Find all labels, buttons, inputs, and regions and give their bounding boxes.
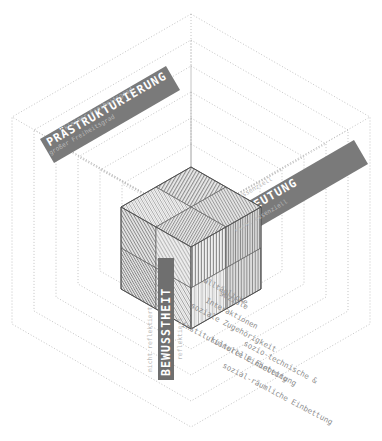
axis-label-bewusstheit: BEWUSSTHEIT <box>159 288 173 376</box>
isometric-cube-diagram: PRÄSTRUKTURIERUNG BEDEUTUNG <box>0 0 382 441</box>
diagram-canvas: PRÄSTRUKTURIERUNG BEDEUTUNG <box>0 0 382 441</box>
tick-nicht-reflektiert: nicht reflektiert <box>146 306 154 372</box>
axis-bewusstheit: BEWUSSTHEIT <box>158 258 174 380</box>
